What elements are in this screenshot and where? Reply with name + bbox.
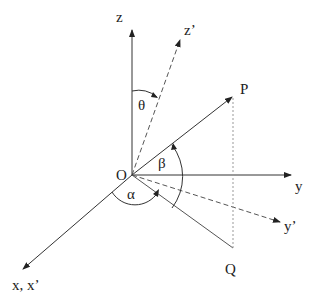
- alpha-arc: [112, 192, 158, 205]
- z-prime-label: z’: [184, 22, 196, 38]
- p-label: P: [240, 81, 248, 97]
- x-axis: [23, 175, 132, 269]
- oq-projection: [132, 175, 233, 248]
- alpha-label: α: [127, 186, 135, 202]
- beta-label: β: [158, 155, 166, 171]
- z-label: z: [116, 9, 123, 25]
- coordinate-diagram: z z’ y y’ x, x’ O P Q θ β α: [0, 0, 317, 300]
- alpha-arrowhead-icon: [153, 189, 159, 197]
- y-prime-axis: [132, 175, 280, 222]
- q-label: Q: [225, 261, 236, 277]
- x-label: x, x’: [12, 277, 40, 293]
- y-prime-label: y’: [284, 218, 297, 234]
- theta-label: θ: [138, 97, 145, 113]
- op-vector: [132, 97, 232, 175]
- y-label: y: [295, 178, 303, 194]
- beta-arc: [172, 145, 183, 208]
- theta-arrowhead-icon: [151, 92, 158, 98]
- origin-label: O: [116, 167, 127, 183]
